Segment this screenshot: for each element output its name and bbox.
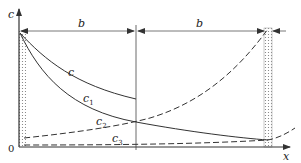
curve-label-c: c (68, 66, 74, 79)
curve-label-c1-subscript: 1 (89, 99, 93, 107)
origin-label: 0 (8, 143, 14, 154)
curve-label-c3: c3 (112, 132, 123, 147)
dimension-label-b2: b (196, 17, 203, 30)
right-membrane-region (264, 28, 272, 147)
concentration-profile-diagram: c 0 x b b c c1 c2 c3 (0, 0, 301, 163)
y-axis-label: c (8, 8, 14, 21)
curve-c (20, 33, 136, 99)
curve-c1 (20, 33, 268, 140)
curve-label-c1: c1 (83, 92, 94, 107)
curve-c3 (24, 128, 295, 145)
curve-c2 (24, 29, 268, 138)
x-axis-label: x (283, 150, 290, 163)
curve-label-c2: c2 (96, 115, 107, 130)
curve-label-c2-subscript: 2 (102, 122, 106, 130)
diagram-canvas: c 0 x b b c c1 c2 c3 (0, 0, 301, 163)
curve-label-c3-subscript: 3 (118, 139, 122, 147)
left-membrane-region (19, 31, 26, 147)
dimension-label-b1: b (78, 17, 85, 30)
